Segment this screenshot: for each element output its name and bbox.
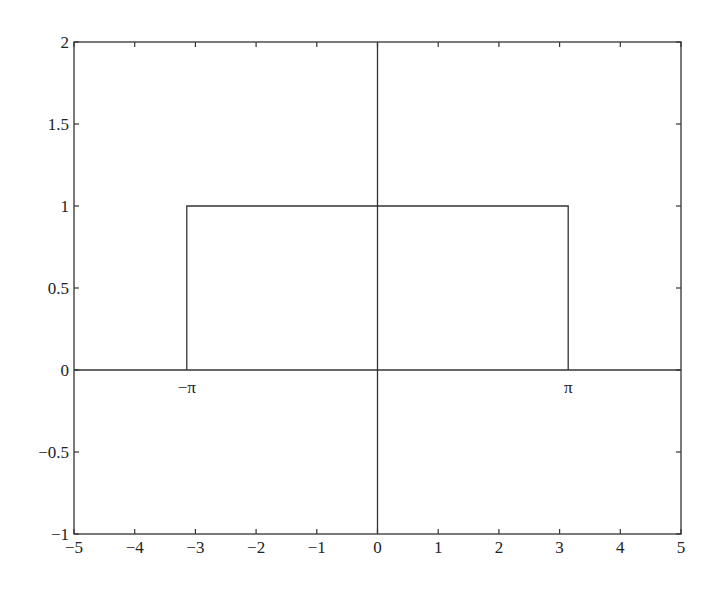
x-tick-label: 3 [555,538,564,557]
x-tick-label: 1 [434,538,443,557]
x-tick-label: −2 [247,538,265,557]
pulse-plot: −5−4−3−2−1012345 −1−0.500.511.52 −ππ [0,0,718,593]
y-tick-label: −1 [51,525,69,544]
y-tick-label: 0.5 [48,279,69,298]
y-tick-label: 2 [61,33,70,52]
y-tick-label: 0 [61,361,70,380]
x-tick-label: −1 [308,538,326,557]
x-tick-label: −3 [186,538,204,557]
reference-lines [74,42,681,534]
y-tick-label: −0.5 [38,443,69,462]
x-tick-label: 4 [616,538,625,557]
x-tick-label: 5 [677,538,686,557]
x-tick-label: −4 [126,538,145,557]
pi-annotation: −π [178,378,197,397]
y-tick-labels: −1−0.500.511.52 [38,33,69,544]
y-tick-label: 1.5 [48,115,69,134]
annotations: −ππ [178,378,573,397]
y-tick-label: 1 [61,197,70,216]
x-tick-label: 2 [495,538,504,557]
x-tick-label: 0 [373,538,382,557]
pi-annotation: π [564,378,573,397]
x-tick-labels: −5−4−3−2−1012345 [65,538,685,557]
